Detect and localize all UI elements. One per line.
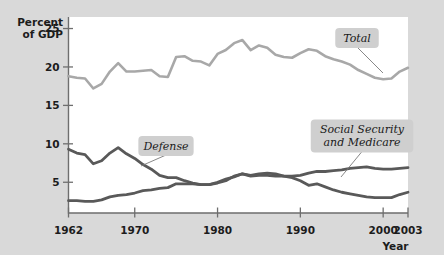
x-axis-tick-label: 1962	[54, 224, 83, 236]
callout-leader-total	[357, 47, 383, 73]
x-axis-tick-label: 1990	[286, 224, 315, 236]
figure-container: 252015105196219701980199020002003Percent…	[0, 0, 444, 255]
y-axis-tick-label: 15	[45, 99, 60, 111]
line-chart: 252015105196219701980199020002003Percent…	[0, 0, 444, 255]
callout-leader-defense	[141, 155, 166, 166]
x-axis-tick-label: 1980	[203, 224, 232, 236]
callout-label-total: Total	[343, 32, 371, 45]
y-axis-tick-label: 20	[45, 61, 60, 73]
x-axis-tick-label: 2003	[393, 224, 422, 236]
callout-label-social-security-and-medicare: Social Security	[320, 123, 405, 136]
x-axis-tick-label: 1970	[120, 224, 149, 236]
callout-label-defense: Defense	[142, 140, 189, 153]
y-axis-tick-label: 5	[52, 176, 59, 188]
callout-leader-social-security-and-medicare	[341, 152, 362, 178]
x-axis-title: Year	[381, 240, 409, 252]
y-axis-tick-label: 10	[45, 138, 60, 150]
callout-label-social-security-and-medicare: and Medicare	[324, 136, 401, 149]
y-axis-title-line1: Percent	[17, 16, 63, 28]
y-axis-title-line2: of GDP	[23, 28, 64, 40]
series-line-defense	[69, 148, 409, 198]
